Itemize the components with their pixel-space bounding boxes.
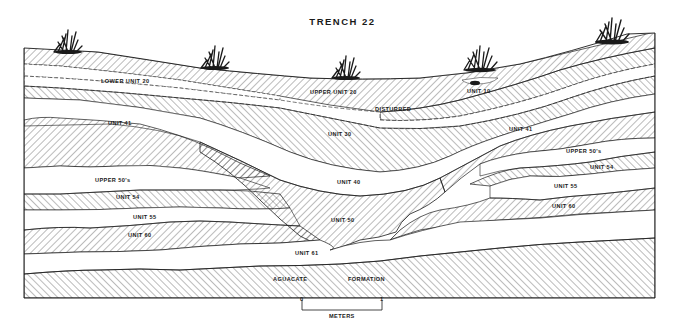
label-unit-55-right: UNIT 55 — [554, 183, 578, 189]
grass-tuft-icon — [464, 46, 497, 72]
scale-bar: 0 1 METERS — [300, 296, 384, 319]
label-disturbed: DISTURBED — [375, 106, 411, 112]
label-unit-41-left: UNIT 41 — [108, 120, 132, 126]
strata-group — [0, 0, 685, 335]
label-lower-unit-20: LOWER UNIT 20 — [101, 78, 149, 84]
trench-cross-section: UPPER UNIT 20 LOWER UNIT 20 UNIT 10 DIST… — [0, 0, 685, 335]
label-unit-60-left: UNIT 60 — [128, 232, 152, 238]
label-unit-54-left: UNIT 54 — [116, 194, 140, 200]
label-formation: FORMATION — [348, 276, 385, 282]
label-aguacate: AGUACATE — [273, 276, 307, 282]
label-upper-unit-20: UPPER UNIT 20 — [310, 89, 357, 95]
unit-10-artifact — [470, 81, 480, 85]
label-upper-50s-left: UPPER 50's — [95, 177, 131, 183]
label-unit-41-right: UNIT 41 — [509, 126, 533, 132]
label-unit-55-left: UNIT 55 — [133, 214, 157, 220]
grass-tuft-icon — [201, 46, 229, 70]
label-unit-60-right: UNIT 60 — [552, 203, 576, 209]
grass-tuft-icon — [595, 18, 629, 44]
label-unit-10: UNIT 10 — [467, 88, 491, 94]
scale-start-label: 0 — [300, 296, 304, 302]
scale-end-label: 1 — [380, 296, 384, 302]
scale-unit-label: METERS — [329, 313, 355, 319]
label-unit-61: UNIT 61 — [295, 250, 319, 256]
label-unit-40: UNIT 40 — [337, 179, 361, 185]
label-unit-30: UNIT 30 — [328, 131, 352, 137]
grass-tuft-icon — [54, 30, 82, 54]
grass-tuft-icon — [332, 56, 360, 80]
label-unit-50: UNIT 50 — [331, 217, 355, 223]
label-unit-54-right: UNIT 54 — [590, 164, 614, 170]
label-upper-50s-right: UPPER 50's — [566, 148, 602, 154]
